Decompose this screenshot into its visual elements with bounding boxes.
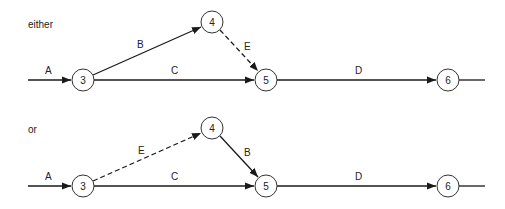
edge-label-e: E [138,145,145,156]
node-4: 4 [201,11,223,33]
edge-label-d: D [355,65,362,76]
edge-label-c: C [171,65,178,76]
diagram-or: or A E C B D 3 4 5 6 [28,117,485,197]
edge-label-a: A [45,65,52,76]
edge-e-dashed-arrow [220,30,258,71]
edge-label-b: B [137,39,144,50]
node-5: 5 [255,69,277,91]
node-4: 4 [201,117,223,139]
edge-label-a: A [45,171,52,182]
node-label-6: 6 [445,181,451,192]
node-label-4: 4 [209,123,215,134]
node-label-4: 4 [209,17,215,28]
edge-label-b: B [244,147,251,158]
activity-network-diagram: either A B C E D 3 4 5 [0,0,505,209]
node-label-6: 6 [445,75,451,86]
edge-label-d: D [355,171,362,182]
node-label-5: 5 [263,181,269,192]
node-3: 3 [72,69,94,91]
diagram-either: either A B C E D 3 4 5 [28,11,485,91]
node-3: 3 [72,175,94,197]
edge-e-dashed-arrow [93,133,201,181]
node-6: 6 [437,69,459,91]
node-label-3: 3 [80,75,86,86]
node-label-5: 5 [263,75,269,86]
node-5: 5 [255,175,277,197]
caption-or: or [28,124,38,135]
edge-b-arrow [93,27,201,75]
edge-b-arrow [220,136,258,177]
caption-either: either [28,19,54,30]
node-6: 6 [437,175,459,197]
node-label-3: 3 [80,181,86,192]
edge-label-e: E [244,41,251,52]
edge-label-c: C [171,171,178,182]
